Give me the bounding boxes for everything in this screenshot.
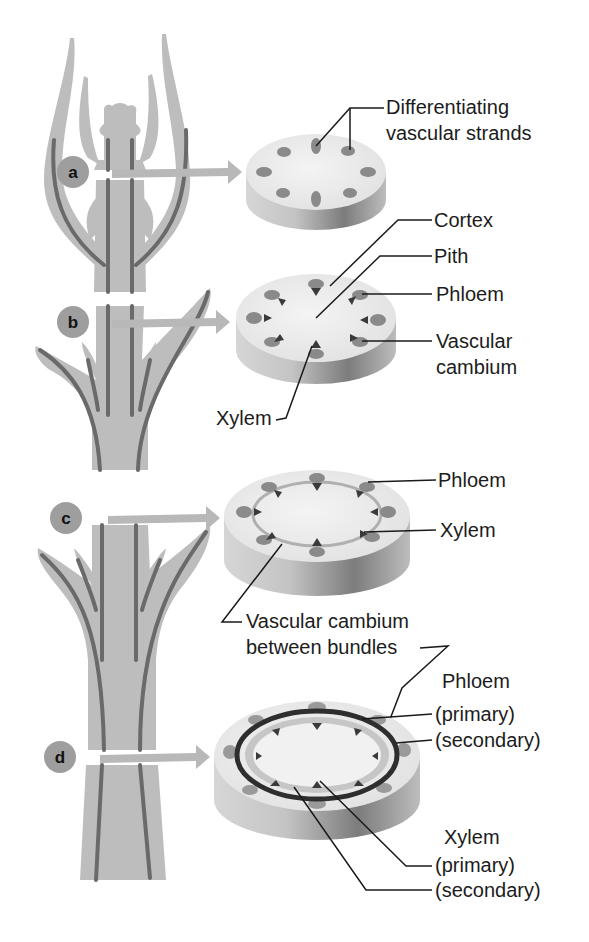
cross-section-c: Phloem Xylem Vascular cambium between bu… (222, 469, 506, 740)
label-vascular-cambium-1: Vascular (436, 330, 513, 352)
label-differentiating: Differentiating (386, 96, 509, 118)
label-vascular-strands: vascular strands (386, 122, 532, 144)
label-cortex: Cortex (434, 209, 493, 231)
pith-d (253, 723, 381, 787)
label-cambium-between-2: between bundles (246, 636, 397, 658)
label-pith: Pith (434, 245, 468, 267)
cross-section-b: Cortex Pith Phloem Vascular cambium Xyle… (216, 209, 517, 429)
stage-d-letter: d (55, 748, 65, 767)
label-phloem-secondary: (secondary) (435, 729, 541, 751)
stem-vascular-development-diagram: a b c d Differentiating vascula (0, 0, 589, 942)
label-cambium-between-1: Vascular cambium (246, 610, 409, 632)
label-xylem-b: Xylem (216, 407, 272, 429)
stage-c-letter: c (61, 509, 70, 528)
label-phloem-b: Phloem (436, 283, 504, 305)
label-xylem-primary: (primary) (435, 854, 515, 876)
label-xylem-d: Xylem (444, 826, 500, 848)
label-vascular-cambium-2: cambium (436, 356, 517, 378)
cross-section-d: Phloem (primary) (secondary) Xylem (prim… (214, 670, 541, 901)
label-phloem-primary: (primary) (435, 703, 515, 725)
stage-b-letter: b (68, 313, 78, 332)
stage-a-marker: a (57, 156, 242, 188)
label-xylem-c: Xylem (440, 519, 496, 541)
stage-a-letter: a (68, 163, 78, 182)
label-phloem-c: Phloem (438, 469, 506, 491)
label-xylem-secondary: (secondary) (435, 879, 541, 901)
label-phloem-d: Phloem (442, 670, 510, 692)
